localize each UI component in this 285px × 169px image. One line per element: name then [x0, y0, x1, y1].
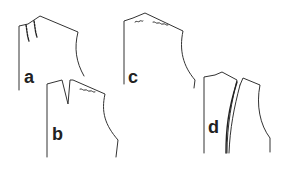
label-a: a — [24, 68, 34, 86]
label-b: b — [52, 125, 63, 143]
label-d: d — [208, 118, 219, 136]
piece-d-outline — [204, 72, 270, 153]
label-c: c — [128, 68, 138, 86]
pattern-drawing — [0, 0, 285, 169]
piece-b-outline — [47, 80, 118, 157]
pattern-diagram: a b c d — [0, 0, 285, 169]
